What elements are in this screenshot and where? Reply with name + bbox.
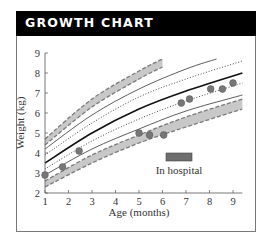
percentile-bands [45,59,242,187]
x-axis-title: Age (months) [109,206,170,219]
growth-chart-plot: 23456789123456789 In hospital Age (month… [0,0,266,235]
weight-data-point [59,164,66,171]
y-tick-label: 7 [35,88,40,99]
weight-data-point [178,100,185,107]
weight-data-point [207,86,214,93]
percentile-curve [45,59,217,149]
y-tick-label: 8 [35,68,40,79]
weight-data-point [186,96,193,103]
x-tick-label: 1 [42,196,47,207]
y-tick-label: 2 [35,188,40,199]
x-tick-label: 9 [230,196,235,207]
percentile-curve [45,83,242,169]
x-tick-label: 7 [183,196,188,207]
weight-data-point [146,132,153,139]
weight-data-point [219,86,226,93]
hospital-legend-swatch [166,153,192,161]
weight-data-point [42,172,49,179]
y-tick-label: 5 [35,128,40,139]
weight-data-point [76,148,83,155]
weight-data-point [160,132,167,139]
weight-data-point [136,130,143,137]
x-tick-label: 8 [207,196,212,207]
x-tick-label: 3 [89,196,94,207]
legend: In hospital [156,153,203,176]
y-tick-label: 9 [35,48,40,59]
y-tick-label: 4 [35,148,41,159]
x-tick-label: 2 [66,196,71,207]
y-tick-label: 3 [35,168,40,179]
y-tick-label: 6 [35,108,40,119]
y-axis-title: Weight (kg) [14,96,27,149]
hospital-legend-label: In hospital [156,164,203,176]
weight-data-point [230,80,237,87]
